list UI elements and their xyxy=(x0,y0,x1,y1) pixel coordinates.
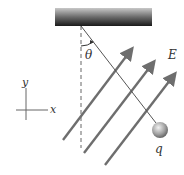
ceiling xyxy=(55,8,152,26)
charge-label: q xyxy=(155,142,163,156)
pendulum-diagram: θ E q y x xyxy=(0,0,184,175)
charge-sphere xyxy=(152,122,168,138)
coordinate-axes xyxy=(16,88,48,120)
field-label: E xyxy=(167,48,177,62)
field-arrow xyxy=(63,50,131,140)
field-arrow xyxy=(84,63,153,153)
field-arrow xyxy=(105,75,174,165)
y-axis-label: y xyxy=(21,76,29,89)
x-axis-label: x xyxy=(50,103,57,116)
angle-label: θ xyxy=(85,48,93,62)
